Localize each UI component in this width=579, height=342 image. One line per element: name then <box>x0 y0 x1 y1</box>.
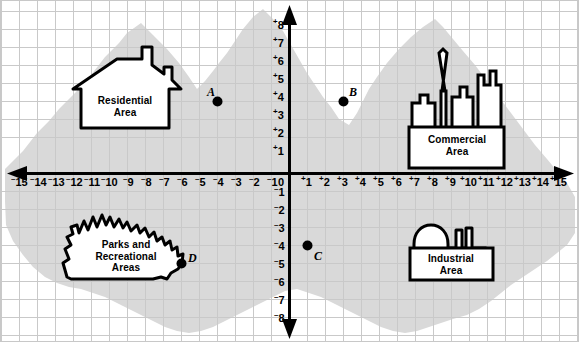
x-tick-1: +1 <box>301 177 312 188</box>
x-tick--7: –7 <box>159 177 170 188</box>
zone-industrial-line1: Industrial <box>413 253 489 265</box>
x-tick-2: +2 <box>319 177 330 188</box>
y-tick--2: –2 <box>274 205 285 216</box>
zone-label-residential: Residential Area <box>85 95 165 118</box>
zone-commercial-line2: Area <box>415 146 499 158</box>
map-canvas <box>1 1 579 342</box>
x-tick--11: –11 <box>84 177 100 188</box>
zone-residential-line1: Residential <box>85 95 165 107</box>
x-tick-11: +11 <box>478 177 494 188</box>
x-tick--5: –5 <box>195 177 206 188</box>
y-tick--1: –1 <box>274 187 285 198</box>
point-label-A: A <box>207 86 215 98</box>
zone-label-industrial: Industrial Area <box>413 253 489 276</box>
x-tick-6: +6 <box>391 177 402 188</box>
zone-label-parks: Parks and Recreational Areas <box>80 239 172 274</box>
y-tick--7: –7 <box>274 295 285 306</box>
x-tick--2: –2 <box>249 177 260 188</box>
plot-point-D[interactable] <box>177 259 187 269</box>
x-tick--12: –12 <box>66 177 83 188</box>
y-tick-4: +4 <box>273 92 284 103</box>
x-tick-9: +9 <box>445 177 456 188</box>
y-tick-8: +8 <box>273 20 284 31</box>
x-tick-15: +15 <box>550 177 567 188</box>
point-label-B: B <box>349 86 357 98</box>
x-tick--3: –3 <box>231 177 242 188</box>
y-tick-7: +7 <box>273 38 284 49</box>
x-tick-7: +7 <box>409 177 420 188</box>
x-tick--14: –14 <box>30 177 47 188</box>
x-tick-13: +13 <box>514 177 531 188</box>
y-tick-3: +3 <box>273 110 284 121</box>
x-tick-8: +8 <box>427 177 438 188</box>
x-tick-5: +5 <box>373 177 384 188</box>
y-tick-2: +2 <box>273 128 284 139</box>
y-tick--6: –6 <box>274 277 285 288</box>
zone-parks-line1: Parks and <box>80 239 172 251</box>
plot-point-C[interactable] <box>303 241 313 251</box>
coordinate-grid-map: –15 –14 –13 –12 –11 –10 –9 –8 –7 –6 –5 –… <box>0 0 579 342</box>
y-tick-5: +5 <box>273 74 284 85</box>
zone-industrial-line2: Area <box>413 265 489 277</box>
zone-label-commercial: Commercial Area <box>415 134 499 157</box>
x-tick--8: –8 <box>141 177 152 188</box>
x-tick--9: –9 <box>123 177 134 188</box>
x-tick-4: +4 <box>355 177 366 188</box>
zone-parks-line2: Recreational <box>80 251 172 263</box>
point-label-C: C <box>314 250 322 262</box>
y-tick--5: –5 <box>274 259 285 270</box>
x-tick--6: –6 <box>177 177 188 188</box>
x-tick-10: +10 <box>460 177 477 188</box>
x-tick--13: –13 <box>48 177 65 188</box>
x-tick-14: +14 <box>532 177 549 188</box>
y-tick--4: –4 <box>274 241 285 252</box>
x-tick-3: +3 <box>337 177 348 188</box>
y-tick--3: –3 <box>274 223 285 234</box>
plot-point-B[interactable] <box>339 97 349 107</box>
y-tick-6: +6 <box>273 56 284 67</box>
x-tick--4: –4 <box>213 177 224 188</box>
zone-parks-line3: Areas <box>80 262 172 274</box>
x-tick--15: –15 <box>11 177 28 188</box>
zone-residential-line2: Area <box>85 107 165 119</box>
y-tick--8: –8 <box>274 313 285 324</box>
point-label-D: D <box>188 252 197 264</box>
x-tick-12: +12 <box>496 177 513 188</box>
y-tick-1: +1 <box>273 146 284 157</box>
zone-commercial-line1: Commercial <box>415 134 499 146</box>
x-tick--10: –10 <box>101 177 118 188</box>
